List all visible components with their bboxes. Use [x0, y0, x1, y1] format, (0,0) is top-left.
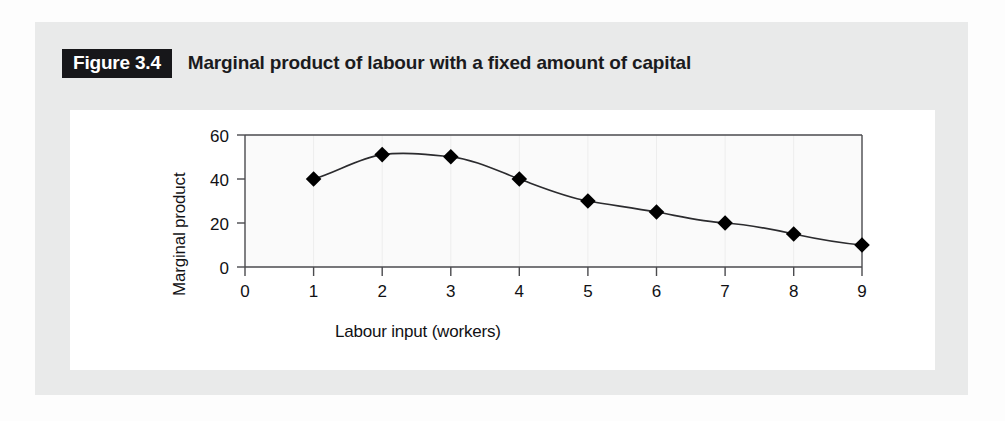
- x-axis-ticks: [245, 267, 862, 276]
- chart-card: 60 40 20 0 0 1 2 3 4 5 6 7 8 9 Marginal …: [70, 110, 935, 370]
- x-tick-label-8: 8: [782, 282, 806, 302]
- x-tick-label-3: 3: [439, 282, 463, 302]
- x-tick-label-7: 7: [713, 282, 737, 302]
- x-tick-label-5: 5: [576, 282, 600, 302]
- y-tick-label-0: 0: [195, 259, 229, 279]
- figure-title: Marginal product of labour with a fixed …: [188, 52, 691, 74]
- y-tick-label-20: 20: [195, 215, 229, 235]
- x-tick-label-6: 6: [645, 282, 669, 302]
- plot-background: [245, 135, 862, 267]
- x-tick-label-4: 4: [507, 282, 531, 302]
- x-axis-title: Labour input (workers): [335, 322, 501, 342]
- y-tick-label-40: 40: [195, 171, 229, 191]
- line-chart: 60 40 20 0 0 1 2 3 4 5 6 7 8 9 Marginal …: [70, 110, 935, 370]
- x-tick-label-1: 1: [302, 282, 326, 302]
- x-tick-label-0: 0: [233, 282, 257, 302]
- chart-canvas: [70, 110, 935, 370]
- page-root: Figure 3.4 Marginal product of labour wi…: [0, 0, 1005, 421]
- x-tick-label-2: 2: [370, 282, 394, 302]
- y-tick-label-60: 60: [195, 127, 229, 147]
- figure-panel: Figure 3.4 Marginal product of labour wi…: [35, 22, 968, 395]
- figure-header: Figure 3.4 Marginal product of labour wi…: [62, 48, 691, 78]
- y-axis-title: Marginal product: [170, 173, 190, 296]
- figure-number-badge: Figure 3.4: [62, 49, 172, 78]
- y-axis-ticks: [237, 135, 245, 267]
- x-tick-label-9: 9: [850, 282, 874, 302]
